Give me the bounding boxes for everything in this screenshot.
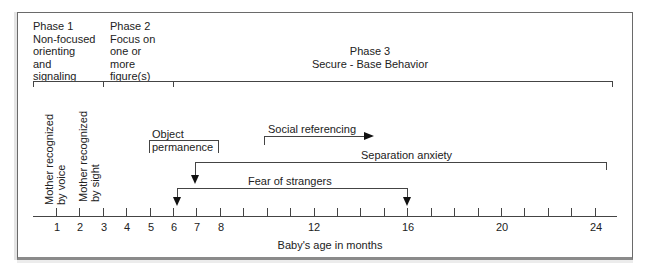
separation-anxiety-label: Separation anxiety xyxy=(361,149,452,162)
x-axis-label: Baby's age in months xyxy=(260,239,400,252)
x-axis-line xyxy=(33,216,617,217)
x-tick xyxy=(478,208,479,216)
fear-of-strangers-line xyxy=(177,188,408,189)
x-tick-label: 5 xyxy=(141,221,161,233)
separation-anxiety-line xyxy=(195,162,607,163)
milestone-mother-sight: Mother recognized by sight xyxy=(77,111,101,202)
social-referencing-label: Social referencing xyxy=(268,123,356,136)
x-tick xyxy=(103,208,104,216)
object-permanence-bracket-right xyxy=(218,140,219,153)
phase-bracket-line xyxy=(33,81,613,82)
x-tick xyxy=(337,208,338,216)
x-tick-label: 16 xyxy=(398,221,418,233)
separation-anxiety-left xyxy=(195,162,196,176)
x-tick xyxy=(548,208,549,216)
x-tick xyxy=(595,208,596,216)
x-tick xyxy=(150,208,151,216)
object-permanence-bracket xyxy=(149,140,219,141)
phase-bracket-tick xyxy=(103,81,104,87)
milestone-mother-voice: Mother recognized by voice xyxy=(43,114,67,205)
x-tick xyxy=(290,208,291,216)
x-tick xyxy=(79,208,80,216)
x-tick xyxy=(571,208,572,216)
x-tick xyxy=(501,208,502,216)
x-tick xyxy=(524,208,525,216)
arrow-down-icon xyxy=(403,197,411,206)
x-tick-label: 24 xyxy=(586,221,606,233)
x-tick xyxy=(220,208,221,216)
x-tick-label: 1 xyxy=(47,221,67,233)
x-tick-label: 2 xyxy=(70,221,90,233)
phase-bracket-tick xyxy=(612,81,613,87)
x-tick xyxy=(407,208,408,216)
arrow-down-icon xyxy=(191,175,199,184)
separation-anxiety-right xyxy=(606,162,607,170)
x-tick xyxy=(267,208,268,216)
x-tick-label: 3 xyxy=(94,221,114,233)
x-tick xyxy=(173,208,174,216)
x-tick xyxy=(314,208,315,216)
object-permanence-bracket-left xyxy=(149,140,150,153)
x-tick xyxy=(196,208,197,216)
x-tick-label: 20 xyxy=(492,221,512,233)
phase-2-label: Phase 2 Focus on one or more figure(s) xyxy=(110,20,155,83)
x-tick xyxy=(360,208,361,216)
phase-1-label: Phase 1 Non-focused orienting and signal… xyxy=(33,20,95,83)
x-tick xyxy=(126,208,127,216)
arrow-down-icon xyxy=(173,197,181,206)
social-referencing-line xyxy=(264,136,364,137)
x-tick-label: 12 xyxy=(304,221,324,233)
x-tick xyxy=(384,208,385,216)
arrow-right-icon xyxy=(364,132,374,140)
x-tick-label: 4 xyxy=(117,221,137,233)
x-tick-label: 6 xyxy=(164,221,184,233)
social-referencing-start xyxy=(264,136,265,145)
x-tick xyxy=(454,208,455,216)
x-tick-label: 7 xyxy=(187,221,207,233)
phase-3-label: Phase 3 Secure - Base Behavior xyxy=(260,45,480,70)
fear-of-strangers-label: Fear of strangers xyxy=(248,175,332,188)
x-tick xyxy=(243,208,244,216)
x-tick-label: 8 xyxy=(211,221,231,233)
x-tick xyxy=(431,208,432,216)
phase-bracket-tick xyxy=(173,81,174,87)
x-tick xyxy=(56,208,57,216)
phase-bracket-tick xyxy=(33,81,34,87)
